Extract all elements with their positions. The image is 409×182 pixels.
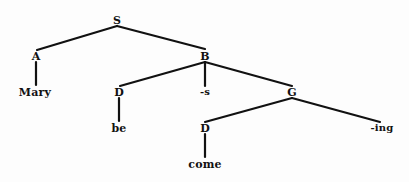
tree-node-s: S bbox=[113, 15, 121, 26]
tree-node-d1: D bbox=[114, 87, 124, 98]
tree-node-g: G bbox=[287, 87, 297, 98]
tree-edge-b-to-d1 bbox=[120, 62, 205, 86]
tree-node-come: come bbox=[188, 159, 221, 170]
tree-node-affing: -ing bbox=[370, 123, 393, 133]
tree-edge-b-to-g bbox=[205, 62, 292, 86]
tree-edge-g-to-d2 bbox=[205, 98, 292, 122]
tree-node-a: A bbox=[32, 51, 41, 62]
tree-node-affs: -s bbox=[200, 87, 210, 97]
tree-node-be: be bbox=[111, 123, 126, 134]
tree-edge-g-to-affing bbox=[292, 98, 380, 122]
tree-node-mary: Mary bbox=[19, 87, 51, 98]
tree-node-d2: D bbox=[200, 123, 210, 134]
tree-edge-s-to-b bbox=[117, 26, 205, 49]
tree-node-b: B bbox=[200, 51, 210, 62]
tree-edge-s-to-a bbox=[37, 26, 117, 50]
syntax-tree-diagram: SABMaryD-sGbeD-ingcome bbox=[0, 0, 409, 182]
